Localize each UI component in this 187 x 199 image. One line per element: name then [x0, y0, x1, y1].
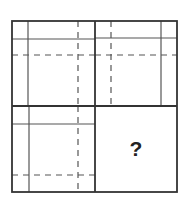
cell-top-right [95, 21, 177, 106]
missing-cell-question-mark: ? [96, 107, 176, 191]
cell-top-left [12, 21, 95, 106]
cell-bottom-left [12, 106, 95, 192]
